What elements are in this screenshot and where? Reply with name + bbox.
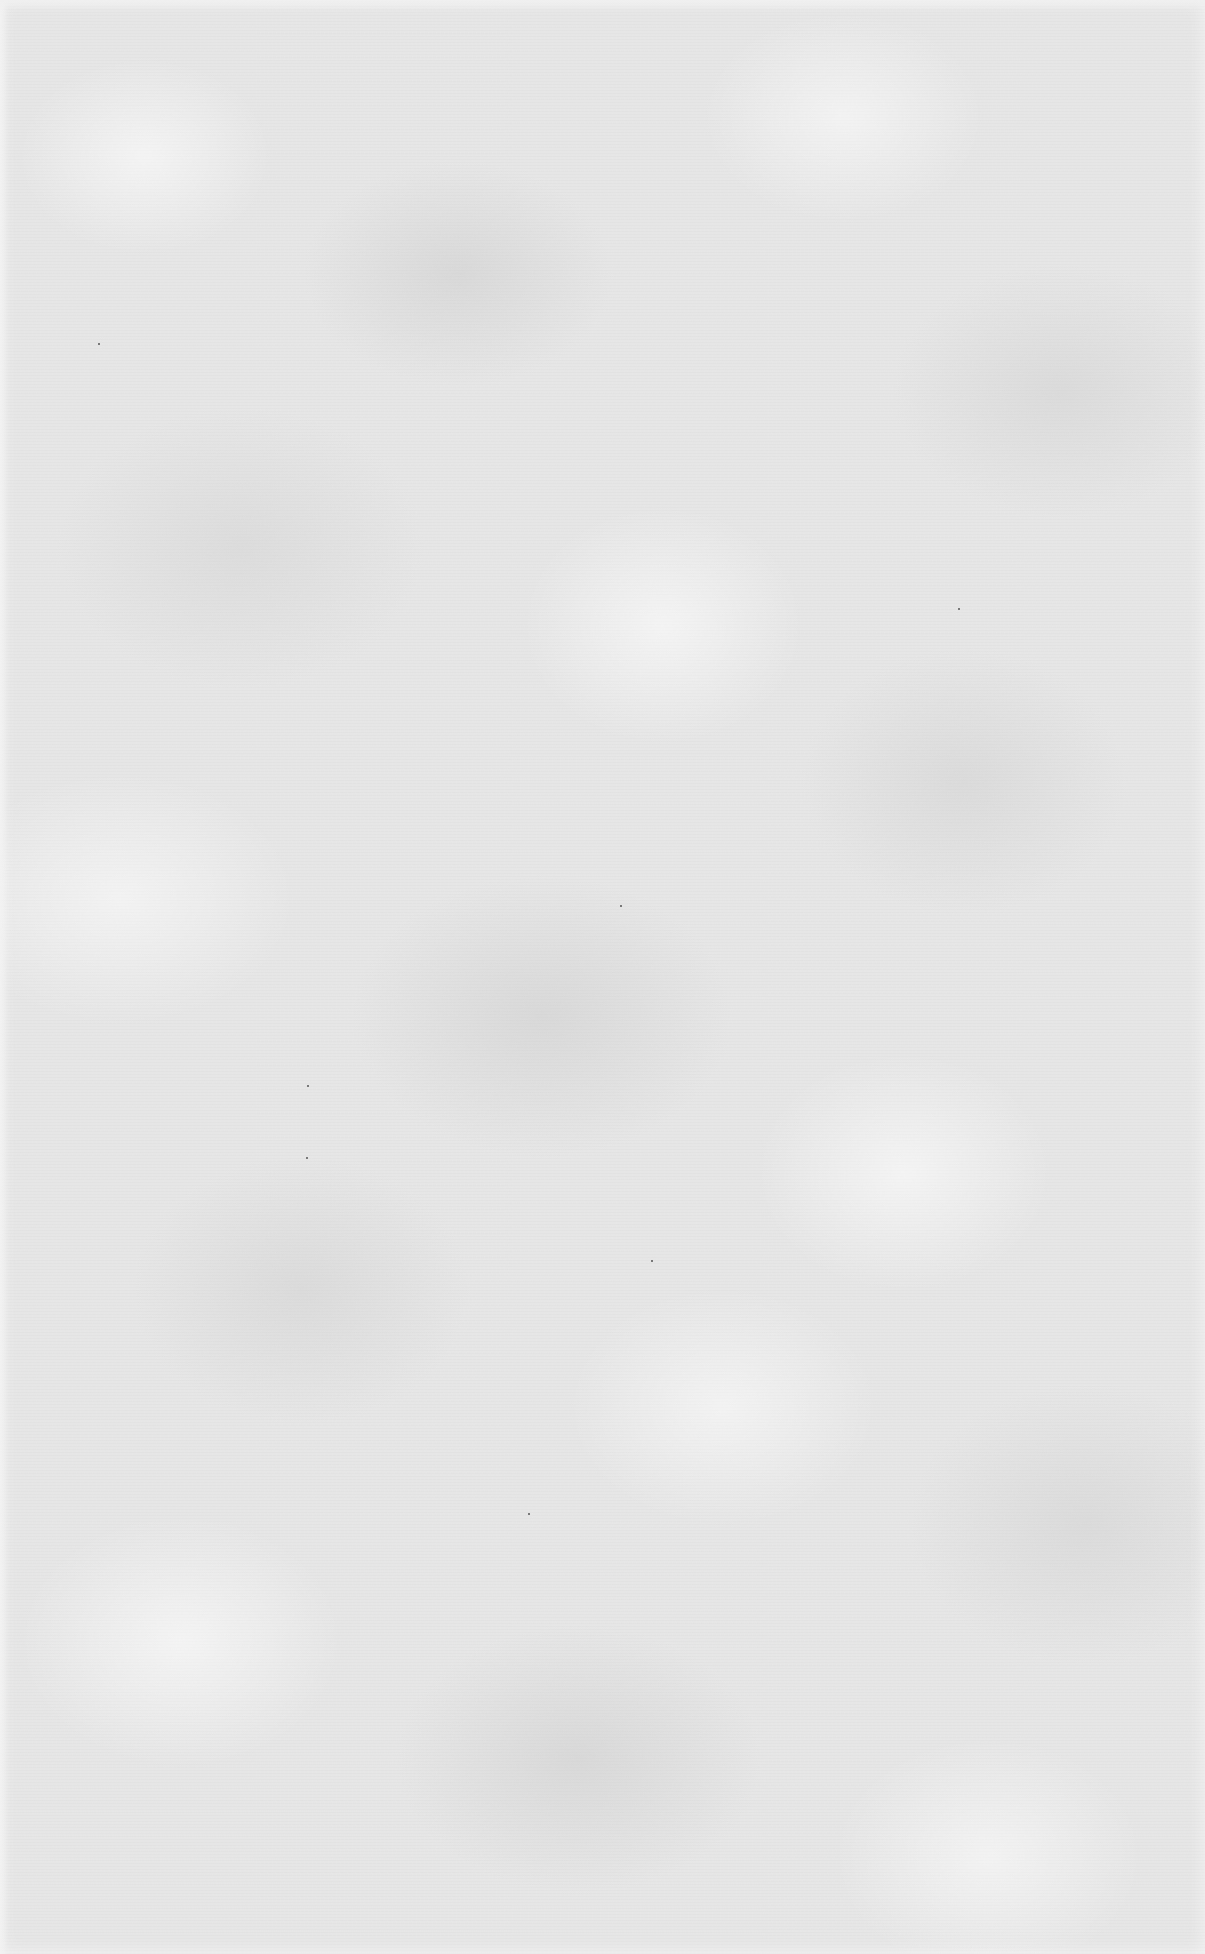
dust-speck [306, 1157, 308, 1159]
dust-speck [307, 1085, 309, 1087]
dust-speck [651, 1260, 653, 1262]
dust-speck [620, 905, 622, 907]
dust-speck [528, 1513, 530, 1515]
dust-speck [958, 608, 960, 610]
page-edge-top [0, 0, 1205, 10]
dust-speck [98, 343, 100, 345]
blank-paper-page [0, 0, 1205, 1954]
page-edge-left [0, 0, 8, 1954]
